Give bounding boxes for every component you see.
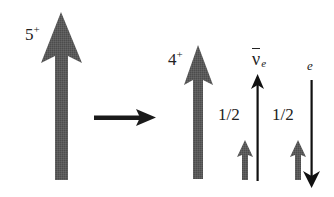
initial-spin-arrow-icon: [41, 12, 82, 180]
final-nucleus-spin-arrow-icon: [184, 45, 213, 179]
antineutrino-momentum-arrow-icon: [251, 74, 264, 181]
initial-state-label: 5+: [25, 26, 40, 43]
transition-arrow-icon: [94, 109, 156, 126]
final-nucleus-label: 4+: [168, 51, 183, 68]
antineutrino-spin-label: 1/2: [218, 106, 240, 123]
diagram-arrows: [0, 0, 334, 197]
antineutrino-label: νe: [252, 48, 266, 68]
electron-momentum-arrow-icon: [303, 80, 320, 188]
electron-spin-label: 1/2: [272, 106, 294, 123]
antineutrino-spin-arrow-icon: [237, 140, 253, 180]
electron-spin-arrow-icon: [290, 140, 306, 180]
electron-label: e: [307, 59, 313, 72]
beta-decay-spin-diagram: 5+ 4+ νe e 1/2 1/2: [0, 0, 334, 197]
